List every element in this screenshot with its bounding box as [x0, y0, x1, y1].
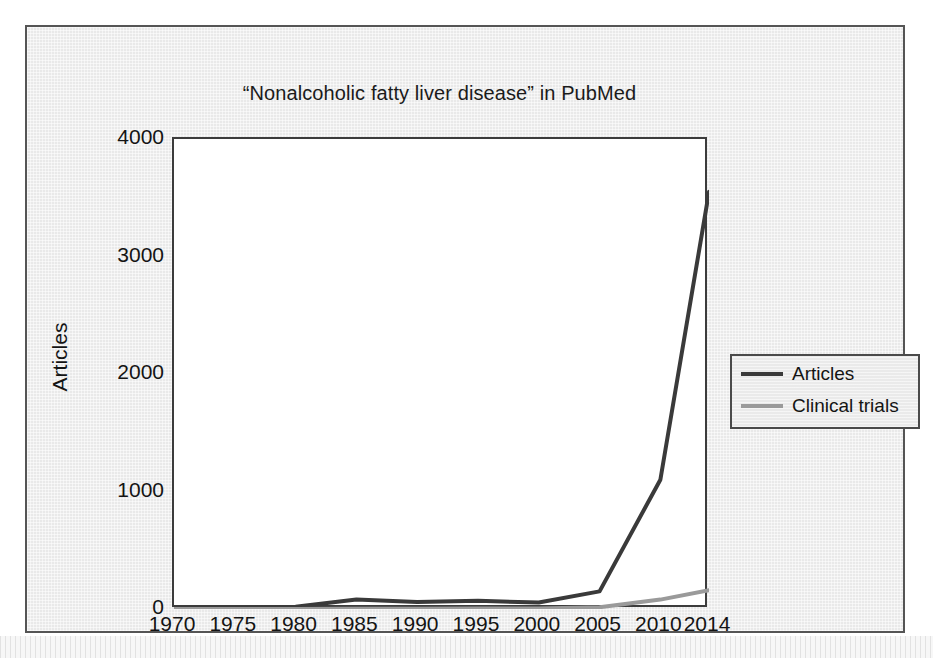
x-tick-label: 1985 — [319, 613, 389, 634]
chart-legend: Articles Clinical trials — [730, 354, 920, 429]
legend-line-swatch-icon — [741, 404, 783, 408]
legend-label: Clinical trials — [792, 395, 899, 417]
legend-line-swatch-icon — [741, 372, 783, 376]
x-tick-label: 2014 — [672, 613, 742, 634]
x-tick-label: 1970 — [137, 613, 207, 634]
x-tick-label: 2000 — [502, 613, 572, 634]
y-tick-label: 3000 — [64, 244, 164, 265]
figure-page: “Nonalcoholic fatty liver disease” in Pu… — [0, 0, 933, 658]
x-tick-label: 2005 — [563, 613, 633, 634]
y-tick-label: 4000 — [64, 126, 164, 147]
y-axis-tick-labels: 01000200030004000 — [60, 137, 164, 607]
x-tick-label: 1990 — [380, 613, 450, 634]
legend-item-articles: Articles — [741, 363, 854, 385]
x-tick-label: 1980 — [259, 613, 329, 634]
x-tick-label: 1995 — [441, 613, 511, 634]
y-tick-label: 1000 — [64, 479, 164, 500]
chart-title: “Nonalcoholic fatty liver disease” in Pu… — [172, 82, 707, 105]
y-tick-label: 2000 — [64, 361, 164, 382]
legend-item-clinical-trials: Clinical trials — [741, 395, 899, 417]
x-axis-tick-labels: 1970197519801985199019952000200520102014 — [172, 613, 707, 643]
legend-label: Articles — [792, 363, 854, 385]
plot-area — [172, 137, 707, 607]
x-tick-label: 1975 — [198, 613, 268, 634]
figure-frame: “Nonalcoholic fatty liver disease” in Pu… — [25, 25, 905, 633]
plot-svg — [174, 139, 709, 609]
series-line-articles — [174, 192, 709, 609]
